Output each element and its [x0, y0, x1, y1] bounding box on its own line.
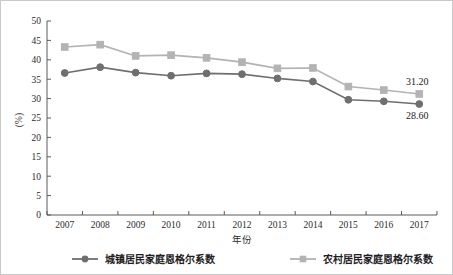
data-point-marker	[416, 101, 423, 108]
x-tick-label: 2011	[197, 220, 216, 230]
figure-border	[1, 1, 453, 275]
chart-figure: 05101520253035404550 2007200820092010201…	[0, 0, 453, 275]
x-tick-label: 2013	[268, 220, 287, 230]
y-tick-label: 45	[32, 36, 42, 46]
data-point-marker	[132, 69, 139, 76]
data-point-marker	[310, 65, 317, 72]
chart-legend: 城镇居民家庭恩格尔系数农村居民家庭恩格尔系数	[72, 253, 434, 265]
y-tick-label: 40	[32, 55, 42, 65]
y-tick-label: 50	[32, 16, 42, 26]
data-point-marker	[416, 91, 423, 98]
data-point-marker	[274, 65, 281, 72]
y-tick-label: 30	[32, 94, 42, 104]
data-point-marker	[168, 72, 175, 79]
legend-marker-circle-icon	[82, 256, 89, 263]
y-tick-label: 10	[32, 172, 42, 182]
legend-label: 城镇居民家庭恩格尔系数	[105, 253, 216, 265]
data-value-label: 28.60	[406, 110, 429, 121]
x-axis-title: 年份	[232, 234, 252, 245]
y-tick-label: 0	[36, 210, 41, 220]
data-point-marker	[97, 41, 104, 48]
x-tick-label: 2017	[410, 220, 429, 230]
x-tick-label: 2009	[126, 220, 145, 230]
data-point-marker	[168, 52, 175, 59]
y-tick-label: 15	[32, 152, 42, 162]
x-tick-label: 2014	[303, 220, 322, 230]
data-point-marker	[203, 70, 210, 77]
x-tick-label: 2016	[374, 220, 393, 230]
x-tick-label: 2010	[162, 220, 181, 230]
y-axis-tick-labels: 05101520253035404550	[32, 16, 42, 220]
legend-label: 农村居民家庭恩格尔系数	[322, 253, 434, 265]
series-markers-group	[61, 41, 422, 107]
x-tick-label: 2015	[339, 220, 358, 230]
value-annotations-group: 31.2028.60	[406, 76, 429, 121]
data-point-marker	[61, 70, 68, 77]
x-axis-tick-labels: 2007200820092010201120122013201420152016…	[55, 220, 429, 230]
data-point-marker	[345, 96, 352, 103]
data-point-marker	[310, 78, 317, 85]
y-tick-label: 20	[32, 133, 42, 143]
legend-item[interactable]: 城镇居民家庭恩格尔系数	[72, 253, 216, 265]
y-axis-tick-marks	[47, 21, 51, 215]
y-tick-label: 35	[32, 75, 42, 85]
data-point-marker	[345, 83, 352, 90]
y-tick-label: 5	[36, 191, 41, 201]
legend-marker-square-icon	[300, 256, 307, 263]
engel-coefficient-line-chart: 05101520253035404550 2007200820092010201…	[0, 0, 453, 275]
legend-item[interactable]: 农村居民家庭恩格尔系数	[290, 253, 434, 265]
data-point-marker	[380, 98, 387, 105]
x-tick-label: 2007	[55, 220, 74, 230]
x-tick-label: 2012	[233, 220, 252, 230]
x-axis-tick-marks	[47, 211, 437, 215]
data-value-label: 31.20	[406, 76, 429, 87]
data-point-marker	[61, 44, 68, 51]
data-point-marker	[203, 55, 210, 62]
data-point-marker	[132, 53, 139, 60]
y-axis-title: (%)	[14, 113, 25, 127]
data-point-marker	[274, 75, 281, 82]
data-point-marker	[381, 87, 388, 94]
data-point-marker	[97, 64, 104, 71]
data-point-marker	[239, 59, 246, 66]
y-tick-label: 25	[32, 113, 42, 123]
data-point-marker	[239, 71, 246, 78]
x-tick-label: 2008	[91, 220, 110, 230]
